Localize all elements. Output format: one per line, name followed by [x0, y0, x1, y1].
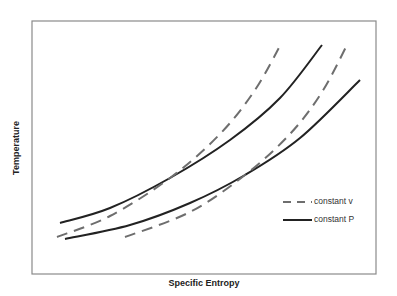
legend-label-constant-p: constant P	[314, 214, 354, 224]
series-layer	[57, 43, 360, 239]
legend-label-constant-v: constant v	[314, 196, 353, 206]
constant-v-curve-3	[125, 43, 348, 237]
legend	[283, 202, 312, 220]
ts-diagram	[0, 0, 397, 296]
constant-p-curve-0	[60, 45, 322, 223]
y-axis-label: Temperature	[11, 121, 21, 175]
constant-v-curve-1	[57, 44, 281, 237]
x-axis-label: Specific Entropy	[32, 278, 376, 288]
